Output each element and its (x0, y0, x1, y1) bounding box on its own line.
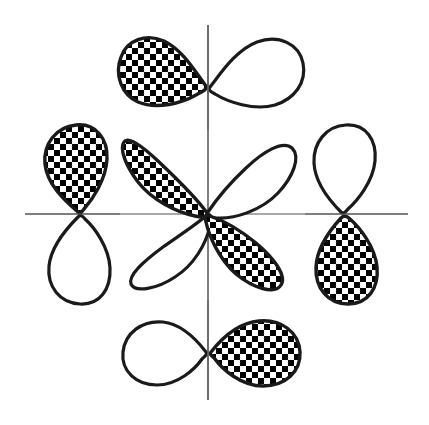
orbital-diagram-figure (0, 0, 429, 425)
orbital-diagram-canvas (0, 0, 429, 425)
